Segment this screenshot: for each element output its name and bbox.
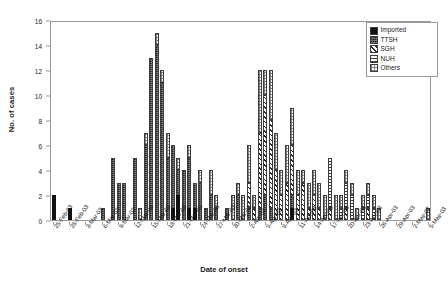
legend-label: TTSH: [381, 37, 398, 44]
stacked-bar: [269, 70, 273, 220]
bar-segment-others: [166, 133, 170, 158]
bar-segment-others: [176, 158, 180, 171]
bar-segment-ttsh: [290, 195, 294, 208]
stacked-bar: [160, 70, 164, 220]
y-axis-tick-label: 6: [38, 143, 42, 150]
legend-label: SGH: [381, 46, 395, 53]
bar-segment-others: [344, 170, 348, 183]
legend-label: Imported: [381, 27, 407, 34]
bar-segment-others: [312, 170, 316, 195]
bar-segment-nuh: [366, 195, 370, 208]
bar-segment-others: [144, 133, 148, 146]
x-axis-tick-label: 5-May-03: [428, 206, 447, 230]
bar-segment-others: [296, 170, 300, 195]
bar-segment-ttsh: [171, 145, 175, 208]
y-axis-tick-label: 12: [35, 68, 42, 75]
stacked-bar: [52, 195, 56, 220]
stacked-bar: [171, 145, 175, 220]
bar-segment-others: [279, 170, 283, 195]
legend-swatch-nuh: [370, 55, 378, 63]
legend-item-sgh: SGH: [370, 45, 433, 54]
x-axis: 25-Feb-0328-Feb-033-Mar-036-Mar-039-Mar-…: [50, 222, 431, 282]
bar-segment-nuh: [328, 158, 332, 208]
y-axis-tick-label: 14: [35, 43, 42, 50]
bar-segment-sgh: [296, 195, 300, 220]
bar-segment-ttsh: [160, 83, 164, 221]
bar-segment-ttsh: [176, 170, 180, 195]
legend-swatch-others: [370, 64, 378, 72]
y-axis-tick-label: 8: [38, 118, 42, 125]
stacked-bar: [285, 145, 289, 220]
bar-segment-ttsh: [198, 183, 202, 221]
bar-segment-others: [269, 70, 273, 120]
sars-epidemic-curve-chart: No. of cases Date of onset 0246810121416…: [0, 0, 448, 285]
bar-segment-others: [209, 170, 213, 195]
stacked-bar: [258, 70, 262, 220]
y-axis-tick-label: 16: [35, 18, 42, 25]
bar-segment-others: [155, 33, 159, 46]
bar-segment-imported: [52, 195, 56, 220]
legend-label: NUH: [381, 56, 395, 63]
bar-segment-ttsh: [149, 58, 153, 221]
bar-segment-sgh: [258, 133, 262, 208]
bar-segment-others: [198, 170, 202, 183]
legend-swatch-ttsh: [370, 36, 378, 44]
stacked-bar: [290, 108, 294, 221]
bar-segment-others: [247, 145, 251, 183]
bar-segment-others: [263, 70, 267, 95]
bar-segment-ttsh: [155, 45, 159, 220]
bar-segment-sgh: [290, 145, 294, 195]
stacked-bar: [263, 70, 267, 220]
legend-item-imported: Imported: [370, 26, 433, 35]
bar-segment-others: [317, 183, 321, 208]
bar-segment-sgh: [269, 120, 273, 208]
legend-item-nuh: NUH: [370, 54, 433, 63]
bar-segment-others: [307, 183, 311, 208]
bar-segment-others: [285, 145, 289, 183]
y-axis-tick-label: 0: [38, 218, 42, 225]
bar-segment-others: [258, 70, 262, 133]
stacked-bar: [350, 183, 354, 221]
bar-segment-others: [274, 133, 278, 171]
legend-label: Others: [381, 65, 401, 72]
bar-segment-others: [301, 170, 305, 183]
bar-segment-sgh: [263, 95, 267, 195]
bar-segment-others: [252, 195, 256, 208]
bar-segment-others: [339, 195, 343, 208]
y-axis-tick-label: 4: [38, 168, 42, 175]
bar-segment-ttsh: [193, 183, 197, 208]
y-axis-tick-label: 10: [35, 93, 42, 100]
bar-segment-others: [290, 108, 294, 146]
bar-segment-others: [236, 183, 240, 196]
y-axis-tick-label: 2: [38, 193, 42, 200]
legend-swatch-sgh: [370, 45, 378, 53]
stacked-bar: [149, 58, 153, 221]
stacked-bar: [187, 145, 191, 220]
bar-segment-ttsh: [187, 158, 191, 208]
legend-item-others: Others: [370, 64, 433, 73]
legend-swatch-imported: [370, 27, 378, 35]
y-axis: 0246810121416: [0, 21, 50, 221]
legend: ImportedTTSHSGHNUHOthers: [366, 22, 438, 77]
bar-segment-others: [160, 70, 164, 83]
bar-segment-others: [372, 195, 376, 208]
stacked-bar: [155, 33, 159, 221]
bar-segment-others: [350, 183, 354, 196]
legend-item-ttsh: TTSH: [370, 35, 433, 44]
stacked-bar: [301, 170, 305, 220]
bar-segment-others: [187, 145, 191, 158]
bar-segment-others: [366, 183, 370, 196]
